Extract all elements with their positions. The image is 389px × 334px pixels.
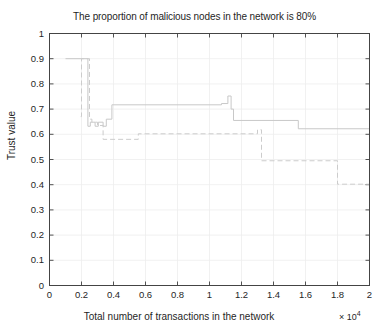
data-series-layer	[66, 59, 370, 185]
series-dashed-series	[81, 59, 370, 185]
y-tick-label: 0.7	[14, 103, 44, 114]
x-tick-label: 1.4	[259, 289, 289, 300]
x-tick-label: 0.6	[131, 289, 161, 300]
plot-canvas	[0, 0, 389, 334]
x-tick-label: 0	[35, 289, 65, 300]
series-solid-series	[66, 59, 370, 129]
x-exponent-power: 4	[357, 310, 361, 317]
x-axis-label: Total number of transactions in the netw…	[49, 311, 309, 322]
x-exponent-prefix: × 10	[339, 312, 357, 322]
x-tick-label: 1.6	[291, 289, 321, 300]
x-tick-label: 1.2	[227, 289, 257, 300]
chart-figure: The proportion of malicious nodes in the…	[0, 0, 389, 334]
y-tick-label: 0.6	[14, 128, 44, 139]
y-tick-label: 0.9	[14, 53, 44, 64]
chart-title: The proportion of malicious nodes in the…	[0, 11, 389, 22]
y-tick-label: 0.5	[14, 154, 44, 165]
y-tick-label: 0.1	[14, 254, 44, 265]
x-axis-exponent: × 104	[339, 310, 361, 322]
y-tick-label: 1	[14, 28, 44, 39]
x-tick-label: 2	[355, 289, 385, 300]
x-tick-label: 0.4	[99, 289, 129, 300]
y-tick-label: 0.2	[14, 229, 44, 240]
y-tick-label: 0.3	[14, 204, 44, 215]
x-tick-label: 1.8	[323, 289, 353, 300]
grid-lines	[50, 34, 370, 286]
x-tick-label: 0.2	[67, 289, 97, 300]
y-tick-label: 0.4	[14, 179, 44, 190]
y-tick-label: 0.8	[14, 78, 44, 89]
x-tick-label: 1	[195, 289, 225, 300]
x-tick-label: 0.8	[163, 289, 193, 300]
